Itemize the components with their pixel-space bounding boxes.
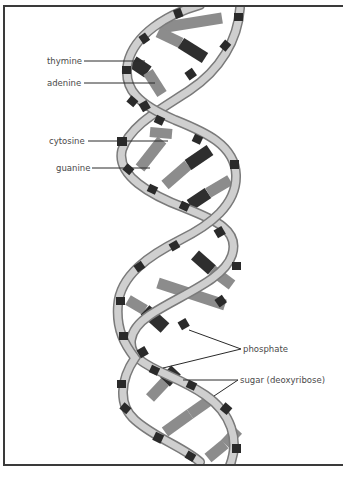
base-pair-bar bbox=[150, 382, 165, 398]
base-pair-bar bbox=[128, 300, 145, 310]
phosphate-band bbox=[232, 444, 241, 453]
label-sugar-deoxyribose: sugar (deoxyribose) bbox=[240, 375, 325, 385]
base-pair-dark bbox=[190, 193, 208, 205]
phosphate-band bbox=[122, 66, 131, 74]
base-pair-dark bbox=[195, 255, 212, 270]
label-thymine: thymine bbox=[47, 56, 82, 66]
phosphate-band bbox=[184, 68, 197, 81]
helix-group: thymine adenine cytosine guanine phospha… bbox=[47, 5, 325, 470]
leader-line-phosphate bbox=[163, 330, 241, 368]
base-pair-dark bbox=[188, 150, 210, 165]
phosphate-band bbox=[234, 13, 243, 21]
label-phosphate: phosphate bbox=[243, 344, 288, 354]
base-adenine-segment bbox=[158, 32, 181, 43]
labels: thymine adenine cytosine guanine phospha… bbox=[47, 56, 325, 385]
base-pair-bar bbox=[208, 180, 230, 193]
cytosine-base bbox=[150, 132, 172, 134]
thymine-base bbox=[133, 62, 148, 72]
label-cytosine: cytosine bbox=[49, 136, 85, 146]
phosphate-band bbox=[119, 332, 128, 340]
label-adenine: adenine bbox=[47, 78, 81, 88]
base-pair-bar bbox=[165, 165, 188, 185]
phosphate-band bbox=[230, 160, 239, 169]
phosphate-band bbox=[232, 262, 241, 270]
phosphate-band bbox=[117, 380, 126, 388]
guanine-base bbox=[140, 140, 162, 168]
base-pair-bar bbox=[165, 414, 190, 432]
phosphate-band bbox=[178, 318, 190, 330]
phosphate-band bbox=[116, 297, 125, 305]
base-thymine-segment bbox=[181, 43, 205, 58]
label-guanine: guanine bbox=[56, 163, 90, 173]
base-pair-bar bbox=[208, 444, 225, 458]
